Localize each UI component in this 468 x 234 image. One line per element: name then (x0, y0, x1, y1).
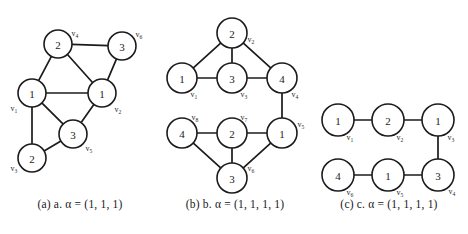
node-weight-label: 2 (385, 115, 391, 127)
vertex-name-label: v3 (448, 133, 455, 144)
graph-diagram-b: 1v12v23v34v41v53v62v74v8 (155, 0, 315, 200)
graph-node: 4v6 (322, 159, 354, 198)
vertex-name-label: v5 (86, 144, 93, 155)
graph-edge (67, 54, 93, 83)
node-weight-label: 1 (335, 115, 341, 127)
node-weight-label: 1 (99, 88, 105, 100)
edge-group (193, 43, 282, 169)
graph-node: 2v2 (372, 104, 404, 143)
vertex-name-label: v4 (292, 90, 299, 101)
graph-edge (44, 141, 62, 151)
vertex-name-label: v6 (136, 30, 143, 41)
node-weight-label: 1 (179, 73, 185, 85)
graph-panel-a: 1v11v22v32v43v53v6 (a) a. α = (1, 1, 1) (0, 0, 160, 234)
node-weight-label: 4 (279, 73, 285, 85)
vertex-name-label: v3 (241, 90, 248, 101)
vertex-name-label: v5 (298, 120, 305, 131)
caption-a: (a) a. α = (1, 1, 1) (0, 198, 160, 210)
graph-node: 1v1 (11, 79, 46, 114)
vertex-name-label: v1 (11, 104, 18, 115)
graph-diagram-c: 1v12v21v33v41v54v6 (310, 0, 468, 200)
graph-node: 2v4 (44, 29, 79, 59)
node-weight-label: 2 (229, 128, 235, 140)
node-weight-label: 3 (229, 73, 235, 85)
graph-edge (71, 44, 108, 45)
graph-node: 3v6 (217, 163, 255, 193)
vertex-name-label: v3 (11, 164, 18, 175)
node-weight-label: 4 (179, 128, 185, 140)
node-weight-label: 2 (55, 39, 61, 51)
graph-node: 1v5 (372, 159, 404, 198)
vertex-name-label: v1 (191, 90, 198, 101)
graph-edge (193, 43, 221, 69)
node-weight-label: 2 (29, 153, 35, 165)
graph-panel-c: 1v12v21v33v41v54v6 (c) c. α = (1, 1, 1, … (310, 0, 468, 234)
graph-node: 1v1 (167, 63, 198, 100)
caption-b: (b) b. α = (1, 1, 1, 1) (155, 198, 315, 210)
vertex-name-label: v2 (397, 133, 404, 144)
vertex-name-label: v1 (347, 133, 354, 144)
figure-root: 1v11v22v32v43v53v6 (a) a. α = (1, 1, 1) … (0, 0, 468, 234)
graph-node: 1v2 (88, 79, 122, 115)
graph-diagram-a: 1v11v22v32v43v53v6 (0, 0, 160, 200)
graph-edge (243, 43, 271, 69)
vertex-name-label: v2 (248, 35, 255, 46)
node-weight-label: 1 (385, 170, 391, 182)
node-weight-label: 3 (229, 173, 235, 185)
node-weight-label: 1 (279, 128, 285, 140)
vertex-name-label: v5 (397, 188, 404, 199)
node-weight-label: 3 (70, 129, 76, 141)
node-weight-label: 4 (335, 170, 341, 182)
vertex-name-label: v6 (347, 188, 354, 199)
graph-node: 3v5 (59, 120, 93, 154)
graph-edge (193, 143, 221, 169)
node-weight-label: 2 (229, 28, 235, 40)
node-weight-label: 1 (435, 115, 441, 127)
vertex-name-label: v2 (115, 105, 122, 116)
graph-edge (81, 104, 94, 123)
graph-node: 3v3 (217, 63, 248, 100)
vertex-name-label: v4 (449, 187, 456, 198)
graph-node: 3v4 (422, 159, 456, 197)
node-weight-label: 3 (435, 170, 441, 182)
graph-node: 2v2 (217, 18, 255, 48)
graph-node: 2v7 (217, 113, 248, 149)
graph-edge (38, 56, 51, 81)
node-weight-label: 1 (29, 88, 35, 100)
graph-node: 1v5 (267, 118, 305, 148)
caption-c: (c) c. α = (1, 1, 1, 1) (310, 198, 468, 210)
graph-node: 1v1 (322, 104, 354, 143)
graph-edge (107, 58, 116, 80)
node-weight-label: 3 (119, 41, 125, 53)
vertex-name-label: v6 (248, 164, 255, 175)
graph-node: 2v3 (11, 144, 46, 174)
graph-node: 3v6 (108, 30, 143, 61)
graph-panel-b: 1v12v23v34v41v53v62v74v8 (b) b. α = (1, … (155, 0, 315, 234)
graph-node: 4v8 (167, 113, 199, 149)
vertex-name-label: v4 (72, 29, 79, 40)
graph-edge (42, 103, 64, 125)
